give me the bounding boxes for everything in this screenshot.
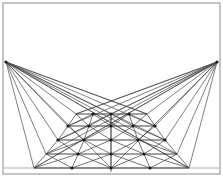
figure-border-frame	[3, 3, 220, 174]
mesh-vertex-r2-c0	[56, 138, 59, 141]
mesh-vertex-r4-c2	[109, 166, 112, 169]
mesh-vertex-r4-c1	[70, 166, 73, 169]
mesh-vertex-r1-c0	[66, 124, 69, 127]
mesh-vertex-r1-c3	[131, 124, 134, 127]
mesh-vertex-r4-c3	[148, 166, 151, 169]
mesh-vertex-r3-c1	[76, 152, 79, 155]
mesh-vertex-r2-c4	[163, 138, 166, 141]
mesh-vertex-r0-c2	[109, 112, 112, 115]
mesh-vertex-r1-c4	[153, 124, 156, 127]
mesh-vertex-r2-c3	[136, 138, 139, 141]
mesh-vertex-r0-c3	[127, 112, 130, 115]
right-vanishing-point	[215, 60, 218, 63]
mesh-vertex-r2-c1	[82, 138, 85, 141]
mesh-vertex-r1-c1	[87, 124, 90, 127]
mesh-vertex-r0-c1	[91, 112, 94, 115]
mesh-vertex-r3-c2	[109, 152, 112, 155]
left-vanishing-point	[4, 60, 7, 63]
mesh-vertex-r3-c3	[142, 152, 145, 155]
mesh-vertex-r1-c2	[109, 124, 112, 127]
mesh-vertex-r2-c2	[109, 138, 112, 141]
figure-canvas	[0, 0, 223, 177]
perspective-mesh-figure: Two-point perspective wireframe mesh dia…	[0, 0, 223, 177]
